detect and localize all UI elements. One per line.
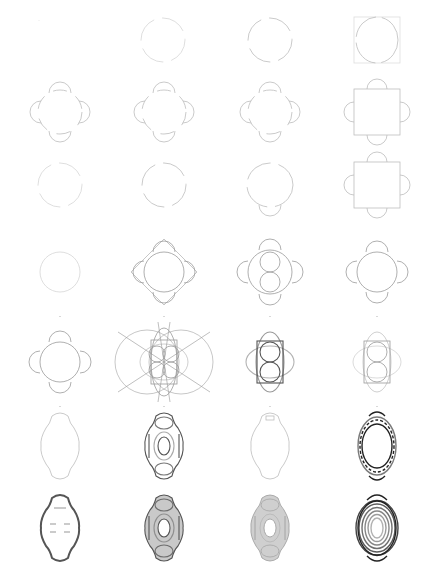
- study-cell-ornate-cartouche-filled-r6c0: [10, 488, 110, 568]
- circle-in-square-drawing-icon: [327, 0, 427, 80]
- study-cell-square-with-lobes-r2c3: [327, 145, 427, 225]
- blank-drawing-icon: [0, 0, 95, 80]
- study-cell-circle-r3c0: [10, 232, 110, 312]
- study-cell-quatrefoil-open-r1c0: [10, 72, 110, 152]
- caption-mark: [269, 316, 271, 317]
- construction-rosette-drawing-icon: [114, 322, 214, 402]
- rect-two-circles-drawing-icon: [220, 322, 320, 402]
- cartouche-shaded-soft-drawing-icon: [220, 488, 320, 568]
- study-cell-circle-gaps-r2c0: [10, 145, 110, 225]
- circle-gaps-drawing-icon: [114, 145, 214, 225]
- study-cell-quatrefoil-diamond-r3c1: [114, 232, 214, 312]
- circle-drawing-icon: [10, 232, 110, 312]
- ornate-frame-drawing-icon: [327, 406, 427, 486]
- study-cell-cartouche-shaded-soft-r6c2: [220, 488, 320, 568]
- ornate-frame-concentric-drawing-icon: [327, 488, 427, 568]
- study-cell-rect-two-circles-r4c3: [327, 322, 427, 402]
- study-cell-circle-in-square-r0c3: [327, 0, 427, 80]
- study-cell-cartouche-shaded-r6c1: [114, 488, 214, 568]
- square-with-lobes-drawing-icon: [327, 72, 427, 152]
- cartouche-shaded-drawing-icon: [114, 488, 214, 568]
- study-cell-quatrefoil-open-r1c1: [114, 72, 214, 152]
- circle-gaps-drawing-icon: [10, 145, 110, 225]
- circle-lobes-vertical-drawing-icon: [220, 145, 320, 225]
- circle-gaps-drawing-icon: [220, 0, 320, 80]
- study-cell-ornate-frame-concentric-r6c3: [327, 488, 427, 568]
- cartouche-nested-drawing-icon: [114, 406, 214, 486]
- study-cell-circle-lobes-vertical-r2c2: [220, 145, 320, 225]
- quatrefoil-circle-drawing-icon: [10, 322, 110, 402]
- quatrefoil-open-drawing-icon: [220, 72, 320, 152]
- study-cell-circle-gaps-r0c2: [220, 0, 320, 80]
- study-cell-circle-gaps-r2c1: [114, 145, 214, 225]
- study-cell-rect-two-circles-r4c2: [220, 322, 320, 402]
- design-study-sheet: [0, 0, 429, 581]
- study-cell-construction-rosette-r4c1: [114, 322, 214, 402]
- quatrefoil-open-drawing-icon: [10, 72, 110, 152]
- study-cell-quatrefoil-two-circles-r3c2: [220, 232, 320, 312]
- cartouche-tab-drawing-icon: [220, 406, 320, 486]
- study-cell-cartouche-tab-r5c2: [220, 406, 320, 486]
- study-cell-quatrefoil-circle-r4c0: [10, 322, 110, 402]
- study-cell-ornate-frame-r5c3: [327, 406, 427, 486]
- caption-mark: [59, 316, 61, 317]
- circle-gaps-drawing-icon: [113, 0, 213, 80]
- quatrefoil-open-drawing-icon: [114, 72, 214, 152]
- study-cell-blank-r0c0: [0, 0, 95, 80]
- caption-mark: [163, 316, 165, 317]
- study-cell-circle-gaps-r0c1: [113, 0, 213, 80]
- cartouche-outline-drawing-icon: [10, 406, 110, 486]
- rect-two-circles-drawing-icon: [327, 322, 427, 402]
- square-with-lobes-drawing-icon: [327, 145, 427, 225]
- quatrefoil-two-circles-drawing-icon: [220, 232, 320, 312]
- study-cell-quatrefoil-circle-r3c3: [327, 232, 427, 312]
- quatrefoil-diamond-drawing-icon: [114, 232, 214, 312]
- quatrefoil-circle-drawing-icon: [327, 232, 427, 312]
- study-cell-quatrefoil-open-r1c2: [220, 72, 320, 152]
- study-cell-cartouche-outline-r5c0: [10, 406, 110, 486]
- study-cell-cartouche-nested-r5c1: [114, 406, 214, 486]
- ornate-cartouche-filled-drawing-icon: [10, 488, 110, 568]
- study-cell-square-with-lobes-r1c3: [327, 72, 427, 152]
- caption-mark: [376, 316, 378, 317]
